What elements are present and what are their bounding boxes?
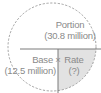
rate-label: Rate — [62, 54, 86, 65]
base-value: (12.5 million) — [0, 65, 56, 76]
portion-value: (30.8 million) — [40, 30, 100, 41]
portion-base-rate-circle — [0, 0, 101, 93]
base-label: Base — [31, 54, 53, 65]
portion-label: Portion — [45, 19, 95, 30]
rate-value: (?) — [62, 65, 86, 76]
